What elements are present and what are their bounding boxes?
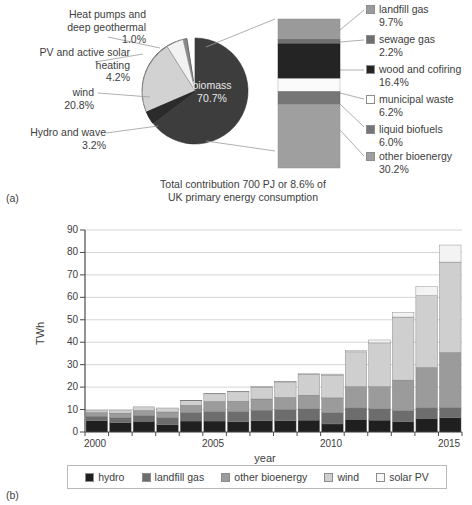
ytick-0: 0 — [50, 426, 78, 437]
swatch-liquid-biofuels-icon — [366, 125, 375, 134]
xtick-2000: 2000 — [75, 438, 115, 449]
breakdown-legend-landfill-gas: landfill gas — [366, 3, 429, 15]
breakdown-legend-liquid-biofuels: liquid biofuels — [366, 123, 443, 135]
pie-label-hydro-wave: Hydro and wave — [10, 126, 106, 139]
ytick-20: 20 — [50, 381, 78, 392]
pie-label-pv-solar: PV and active solar heating — [2, 46, 130, 71]
bar-2015 — [439, 245, 461, 432]
leader-municipal-waste — [340, 93, 364, 99]
ytick-50: 50 — [50, 314, 78, 325]
breakdown-legend-sewage-gas-value: 2.2% — [379, 46, 403, 58]
explosion-line-top — [206, 19, 275, 47]
figure-root: biomass 70.7% — [0, 0, 472, 505]
swatch-hydro-icon — [85, 473, 94, 482]
panel-b-bar-chart: 90 80 70 60 50 40 30 20 10 0 2000 2005 2… — [0, 212, 472, 505]
legend-label-other-bioenergy: other bioenergy — [234, 471, 307, 483]
swatch-landfill-gas-legend-icon — [142, 473, 151, 482]
legend-item-hydro: hydro — [85, 471, 124, 483]
breakdown-legend-wood-cofiring-value: 16.4% — [379, 76, 409, 88]
legend-item-wind: wind — [324, 471, 359, 483]
pie-label-hydro-wave-pct: 3.2% — [10, 139, 106, 152]
leader-sewage-gas — [340, 40, 364, 42]
y-tick-marks — [80, 230, 85, 432]
leader-wind — [98, 93, 150, 97]
bar-seg-landfill-gas — [278, 19, 340, 39]
legend-item-other-bioenergy: other bioenergy — [221, 471, 307, 483]
bar-seg-municipal-waste — [278, 79, 340, 92]
breakdown-legend-other-bioenergy-label: other bioenergy — [379, 150, 452, 162]
ytick-30: 30 — [50, 359, 78, 370]
bar-seg-liquid-biofuels — [278, 92, 340, 105]
breakdown-legend-sewage-gas: sewage gas — [366, 33, 435, 45]
bar-2011 — [345, 351, 367, 432]
breakdown-legend-municipal-waste-label: municipal waste — [379, 93, 454, 105]
panel-a-caption-line2: UK primary energy consumption — [118, 191, 368, 204]
swatch-municipal-waste-icon — [366, 95, 375, 104]
bar-2005 — [204, 393, 226, 432]
bar-2008 — [275, 382, 297, 433]
panel-a-caption: Total contribution 700 PJ or 8.6% of UK … — [118, 178, 368, 204]
ytick-10: 10 — [50, 404, 78, 415]
swatch-other-bioenergy-legend-icon — [221, 473, 230, 482]
breakdown-legend-other-bioenergy: other bioenergy — [366, 150, 452, 162]
bar-2004 — [180, 400, 202, 432]
y-axis-label: TWh — [34, 322, 46, 345]
breakdown-legend-landfill-gas-label: landfill gas — [379, 3, 429, 15]
panel-a-pie-figure: biomass 70.7% — [0, 0, 472, 212]
legend-label-wind: wind — [337, 471, 359, 483]
leader-other-bioenergy — [340, 130, 364, 156]
breakdown-legend-landfill-gas-value: 9.7% — [379, 16, 403, 28]
bar-2014 — [416, 287, 438, 432]
leader-hydro-wave — [106, 126, 158, 133]
bar-2000 — [86, 410, 108, 432]
swatch-solar-pv-icon — [376, 473, 385, 482]
bar-2013 — [392, 313, 414, 432]
legend-label-landfill-gas: landfill gas — [155, 471, 205, 483]
pie-label-heat-pumps: Heat pumps and deep geothermal — [24, 8, 146, 33]
xtick-2015: 2015 — [429, 438, 469, 449]
bar-2012 — [369, 340, 391, 432]
biomass-breakdown-bar — [278, 19, 340, 168]
bar-seg-wood-and-cofiring — [278, 44, 340, 79]
breakdown-legend-liquid-biofuels-label: liquid biofuels — [379, 123, 443, 135]
bar-2001 — [110, 410, 132, 432]
breakdown-legend-other-bioenergy-value: 30.2% — [379, 163, 409, 175]
x-axis-label: year — [235, 452, 295, 464]
explosion-line-bottom — [206, 141, 275, 151]
pie-label-wind-pct: 20.8% — [12, 99, 94, 112]
breakdown-legend-municipal-waste-value: 6.2% — [379, 106, 403, 118]
swatch-wind-icon — [324, 473, 333, 482]
swatch-other-bioenergy-icon — [366, 152, 375, 161]
xtick-2005: 2005 — [193, 438, 233, 449]
breakdown-legend-wood-cofiring-label: wood and cofiring — [379, 63, 461, 75]
xtick-2010: 2010 — [311, 438, 351, 449]
ytick-90: 90 — [50, 224, 78, 235]
bar-2002 — [133, 407, 155, 432]
panel-b-tag: (b) — [6, 489, 19, 501]
legend-item-solar-pv: solar PV — [376, 471, 429, 483]
bar-2006 — [227, 391, 249, 432]
bar-seg-other-bioenergy — [278, 104, 340, 168]
pie-label-heat-pumps-pct: 1.0% — [24, 33, 146, 46]
swatch-sewage-gas-icon — [366, 35, 375, 44]
pie-label-wind: wind — [12, 86, 94, 99]
panel-a-caption-line1: Total contribution 700 PJ or 8.6% of — [118, 178, 368, 191]
bar-2003 — [157, 408, 179, 432]
breakdown-legend-sewage-gas-label: sewage gas — [379, 33, 435, 45]
legend-item-landfill-gas: landfill gas — [142, 471, 205, 483]
pie-label-pv-solar-pct: 4.2% — [2, 71, 130, 84]
leader-landfill-gas — [340, 10, 364, 30]
bars-group — [86, 245, 461, 432]
bar-2007 — [251, 387, 273, 432]
breakdown-legend-wood-cofiring: wood and cofiring — [366, 63, 461, 75]
x-tick-marks — [85, 432, 462, 436]
bar-chart-legend: hydro landfill gas other bioenergy wind … — [67, 465, 447, 489]
swatch-landfill-gas-icon — [366, 5, 375, 14]
ytick-60: 60 — [50, 291, 78, 302]
bar-seg-sewage-gas — [278, 39, 340, 44]
legend-label-solar-pv: solar PV — [389, 471, 429, 483]
legend-label-hydro: hydro — [98, 471, 124, 483]
leader-liquid-biofuels — [340, 104, 364, 127]
ytick-40: 40 — [50, 336, 78, 347]
panel-a-tag: (a) — [6, 192, 19, 204]
